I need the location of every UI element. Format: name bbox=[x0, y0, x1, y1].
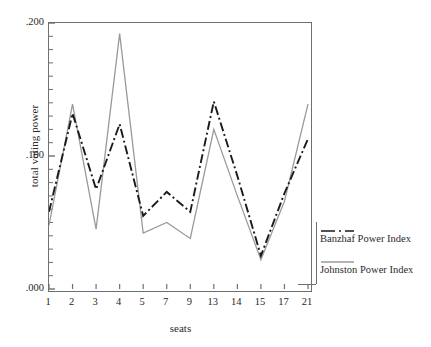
x-tick-label: 15 bbox=[247, 296, 273, 307]
x-tick-label: 14 bbox=[223, 296, 249, 307]
plot-area bbox=[48, 22, 312, 292]
x-tick-label: 9 bbox=[176, 296, 202, 307]
y-tick-label: .200 bbox=[4, 17, 44, 27]
legend-entry-johnston: Johnston Power Index bbox=[316, 253, 431, 275]
plot-svg bbox=[49, 23, 310, 290]
x-tick-label: 1 bbox=[35, 296, 61, 307]
legend-divider-vertical bbox=[316, 222, 317, 284]
x-tick-label: 21 bbox=[294, 296, 320, 307]
x-tick-label: 5 bbox=[129, 296, 155, 307]
y-tick-label: .100 bbox=[4, 150, 44, 160]
series-line bbox=[49, 34, 308, 260]
x-tick-label: 7 bbox=[153, 296, 179, 307]
chart-legend: Banzhaf Power Index Johnston Power Index bbox=[316, 222, 431, 284]
x-tick-label: 3 bbox=[82, 296, 108, 307]
legend-entry-banzhaf: Banzhaf Power Index bbox=[316, 222, 431, 244]
x-tick-label: 4 bbox=[106, 296, 132, 307]
dash-dot-line-icon bbox=[320, 222, 354, 232]
y-tick-label: .000 bbox=[4, 283, 44, 293]
x-tick-label: 13 bbox=[200, 296, 226, 307]
y-axis-tick-labels: .000.100.200 bbox=[0, 0, 44, 292]
x-tick-label: 2 bbox=[59, 296, 85, 307]
x-axis-title: seats bbox=[48, 322, 313, 334]
legend-divider-horizontal bbox=[298, 284, 316, 285]
x-axis-tick-labels: 12345791314151721 bbox=[48, 296, 312, 312]
series-line bbox=[49, 101, 308, 255]
x-tick-label: 17 bbox=[270, 296, 296, 307]
chart-figure: total voting power .000.100.200 12345791… bbox=[0, 0, 431, 347]
solid-line-icon bbox=[320, 253, 354, 263]
